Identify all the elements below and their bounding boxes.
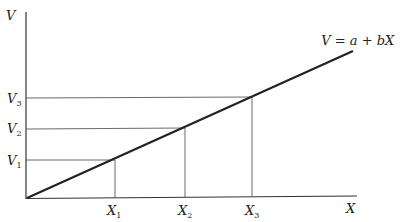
equation-label: V = a + bX	[321, 33, 395, 48]
y-axis-label: V	[6, 8, 17, 23]
y-tick-v1: V1	[7, 153, 21, 170]
guide-v2	[26, 128, 185, 129]
linear-function-diagram: V X V3 V2 V1 X1 X2 X3 V = a + bX	[0, 0, 405, 222]
x-axis-label: X	[345, 201, 356, 216]
function-line	[27, 51, 353, 198]
x-axis	[26, 196, 357, 199]
x-tick-x1: X1	[106, 203, 121, 220]
x-tick-x2: X2	[177, 203, 192, 220]
x-tick-x3: X3	[244, 203, 259, 220]
y-tick-v3: V3	[7, 91, 21, 108]
y-tick-v2: V2	[7, 121, 21, 138]
guide-v3	[26, 97, 252, 98]
